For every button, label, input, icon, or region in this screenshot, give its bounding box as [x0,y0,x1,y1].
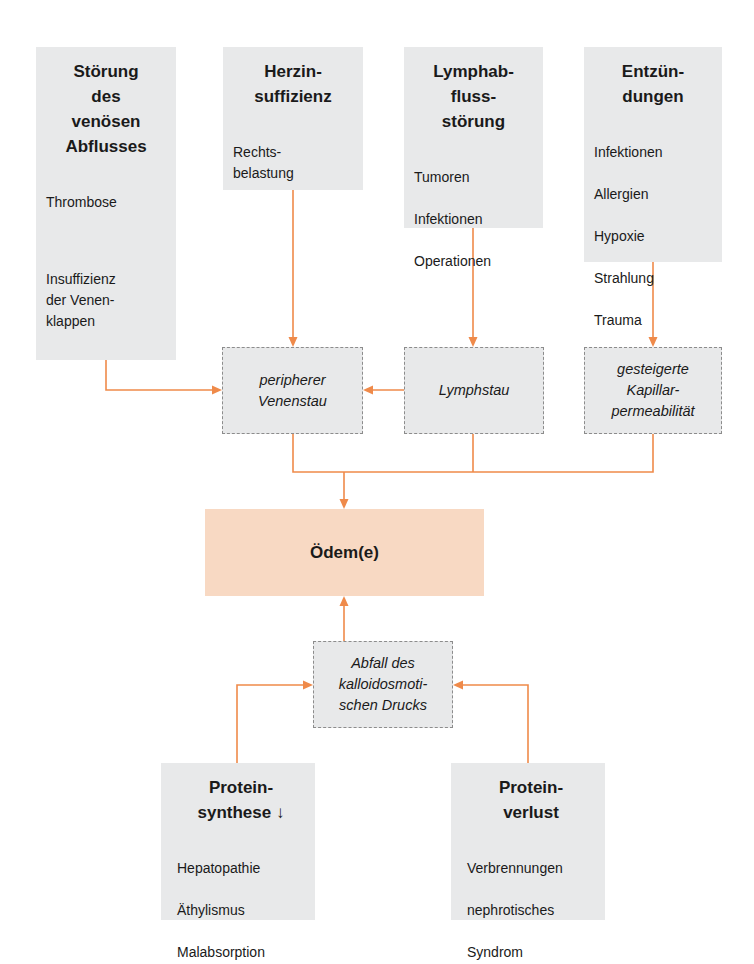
cause-item: Infektionen [414,209,533,230]
cause-item: Hypoxie [594,226,712,247]
cause-item: Strahlung [594,268,712,289]
cause-item: Malabsorption [177,942,305,963]
cause-items: Infektionen Allergien Hypoxie Strahlung … [594,121,712,352]
cause-item: Verbrennungen [467,858,595,879]
cause-title: Entzün- dungen [594,59,712,109]
cause-title: Lymphab- fluss- störung [414,59,533,134]
cause-item: Äthylismus [177,900,305,921]
edge-verlust-to-onkotisch [453,681,528,764]
mechanism-label: peripherer Venenstau [258,370,327,412]
cause-item: Infektionen [594,142,712,163]
mechanism-box-venous-congestion: peripherer Venenstau [222,347,363,434]
edge-synthese-to-onkotisch [237,681,313,764]
cause-item: Rechts- belastung [233,142,353,184]
mechanism-box-capillary-permeability: gesteigerte Kapillar- permeabilität [584,347,722,434]
cause-box-protein-loss: Protein- verlust Verbrennungen nephrotis… [451,763,605,920]
edge-mechanisms-to-result [293,434,653,509]
mechanism-box-lymph-congestion: Lymphstau [404,347,544,434]
cause-items: Tumoren Infektionen Operationen [414,146,533,293]
cause-box-inflammation: Entzün- dungen Infektionen Allergien Hyp… [584,47,722,262]
cause-item: nephrotisches [467,900,595,921]
cause-title: Protein- synthese ↓ [177,775,305,825]
cause-items: Thrombose Insuffizienz der Venen- klappe… [46,171,166,353]
cause-item: Hepatopathie [177,858,305,879]
cause-item: Thrombose [46,192,166,213]
mechanism-label: Lymphstau [439,380,510,401]
cause-item: Syndrom [467,942,595,963]
cause-box-protein-synthesis: Protein- synthese ↓ Hepatopathie Äthylis… [161,763,315,920]
cause-box-lymph-outflow: Lymphab- fluss- störung Tumoren Infektio… [404,47,543,228]
cause-title: Störung des venösen Abflusses [46,59,166,159]
cause-box-heart-failure: Herzin- suffizienz Rechts- belastung [223,47,363,190]
cause-item: Trauma [594,310,712,331]
edge-heart-to-venenstau [289,190,298,347]
cause-item: Operationen [414,251,533,272]
result-box-edema: Ödem(e) [205,509,484,596]
mechanism-box-oncotic-pressure: Abfall des kalloidosmoti- schen Drucks [313,641,453,728]
edge-venous-to-venenstau [106,360,222,395]
mechanism-label: gesteigerte Kapillar- permeabilität [611,359,694,422]
mechanism-label: Abfall des kalloidosmoti- schen Drucks [339,653,428,716]
cause-title: Protein- verlust [467,775,595,825]
cause-items: Hepatopathie Äthylismus Malabsorption [177,837,305,964]
cause-item: Insuffizienz der Venen- klappen [46,269,166,332]
spacer [46,234,166,248]
result-label: Ödem(e) [310,543,379,563]
cause-title: Herzin- suffizienz [233,59,353,109]
cause-items: Verbrennungen nephrotisches Syndrom [467,837,595,964]
cause-item: Allergien [594,184,712,205]
edge-onkotisch-to-result [340,596,349,641]
cause-box-venous-outflow: Störung des venösen Abflusses Thrombose … [36,47,176,360]
edge-lymphstau-to-venenstau [363,386,404,395]
cause-items: Rechts- belastung [233,121,353,205]
cause-item: Tumoren [414,167,533,188]
